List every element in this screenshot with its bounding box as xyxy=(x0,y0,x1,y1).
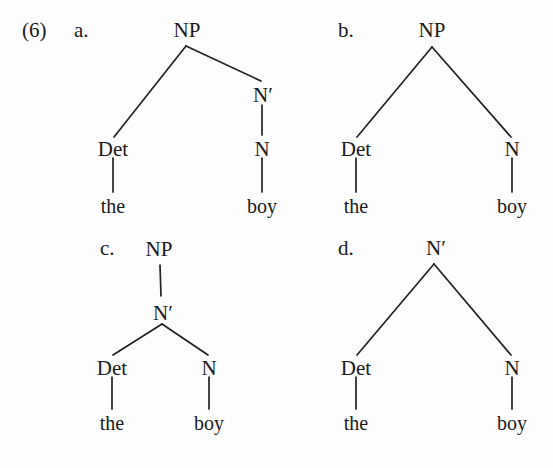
tree-b-node-det: Det xyxy=(341,137,371,161)
tree-a-leaf-the: the xyxy=(101,195,126,217)
tree-c-stem-np-nbar xyxy=(160,265,161,296)
tree-b-leaf-the: the xyxy=(344,195,369,217)
tree-c-branch-nbar-det xyxy=(113,324,162,355)
tree-c-node-det: Det xyxy=(97,356,127,380)
tree-d: d. N′ Det N the boy xyxy=(338,236,527,435)
tree-a-node-n: N xyxy=(254,137,269,161)
tree-c-leaf-the: the xyxy=(100,412,125,434)
tree-a-item-label: a. xyxy=(74,18,89,42)
syntax-trees-figure: (6) a. NP N′ Det N the boy b. xyxy=(0,0,553,468)
tree-c-item-label: c. xyxy=(100,236,115,260)
tree-d-item-label: d. xyxy=(338,236,354,260)
tree-c-leaf-boy: boy xyxy=(194,412,224,435)
tree-c-node-n: N xyxy=(201,356,216,380)
tree-b-branch-np-n xyxy=(432,47,511,137)
tree-d-branch-nbar-n xyxy=(434,264,511,355)
tree-b-item-label: b. xyxy=(338,18,354,42)
example-number: (6) xyxy=(22,18,47,42)
tree-d-leaf-the: the xyxy=(344,412,369,434)
tree-b-node-n: N xyxy=(504,137,519,161)
tree-c-branch-nbar-n xyxy=(162,324,208,355)
tree-a-branch-np-det xyxy=(114,46,186,137)
tree-a-node-nbar: N′ xyxy=(253,83,273,107)
tree-a-node-det: Det xyxy=(98,137,128,161)
tree-d-leaf-boy: boy xyxy=(497,412,527,435)
tree-c: c. NP N′ Det N the boy xyxy=(97,236,224,435)
tree-d-node-det: Det xyxy=(341,356,371,380)
tree-d-node-n: N xyxy=(504,356,519,380)
tree-b-branch-np-det xyxy=(357,47,432,137)
tree-a-branch-np-nbar xyxy=(186,46,261,81)
tree-c-node-nbar: N′ xyxy=(153,301,173,325)
tree-d-node-nbar: N′ xyxy=(426,236,446,260)
tree-a: a. NP N′ Det N the boy xyxy=(74,18,277,218)
tree-a-node-np: NP xyxy=(174,18,201,42)
tree-b-leaf-boy: boy xyxy=(497,195,527,218)
tree-a-leaf-boy: boy xyxy=(247,195,277,218)
figure-page: (6) a. NP N′ Det N the boy b. xyxy=(0,0,553,468)
tree-b: b. NP Det N the boy xyxy=(338,18,527,218)
tree-d-branch-nbar-det xyxy=(357,264,434,355)
tree-c-node-np: NP xyxy=(146,237,173,261)
tree-b-node-np: NP xyxy=(419,18,446,42)
